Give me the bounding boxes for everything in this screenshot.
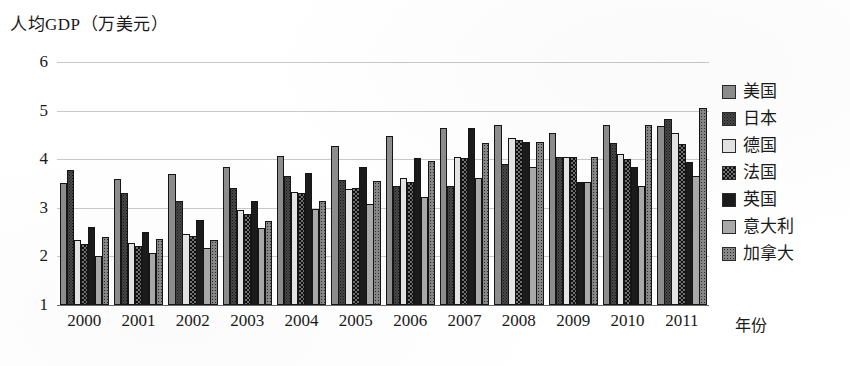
bar-group [603,62,652,305]
legend-swatch-icon [722,247,736,261]
bar [373,181,380,305]
x-axis-tick-labels: 2000200120022003200420052006200720082009… [57,311,709,339]
bar-group [494,62,543,305]
y-tick-label: 2 [0,246,48,266]
bar-group [549,62,598,305]
bar [156,239,163,305]
bar [102,237,109,305]
legend-swatch-icon [722,220,736,234]
legend-item[interactable]: 德国 [722,132,844,159]
x-tick-label: 2001 [122,311,156,331]
legend-label: 加拿大 [743,245,794,262]
x-tick-label: 2011 [665,311,698,331]
x-tick-label: 2005 [339,311,373,331]
chart-title: 人均GDP（万美元） [10,10,168,35]
bar-group [657,62,706,305]
plot-area [57,62,709,305]
bar [645,125,652,305]
legend-label: 意大利 [743,218,794,235]
legend-swatch-icon [722,139,736,153]
bar-group [440,62,489,305]
legend-item[interactable]: 意大利 [722,213,844,240]
bar-group [277,62,326,305]
legend-item[interactable]: 英国 [722,186,844,213]
y-tick-label: 1 [0,295,48,315]
bar [591,157,598,305]
bar [699,108,706,305]
x-tick-label: 2009 [556,311,590,331]
legend-item[interactable]: 日本 [722,105,844,132]
legend-item[interactable]: 加拿大 [722,240,844,267]
bar [482,143,489,305]
x-axis-title: 年份 [735,312,767,336]
legend-item[interactable]: 美国 [722,78,844,105]
y-axis-tick-labels: 123456 [0,62,48,305]
legend-swatch-icon [722,85,736,99]
x-tick-label: 2008 [502,311,536,331]
bar [319,201,326,305]
bar-group [114,62,163,305]
y-tick-label: 3 [0,198,48,218]
bar-group [168,62,217,305]
x-tick-label: 2004 [285,311,319,331]
legend-label: 美国 [743,83,777,100]
bar-group [386,62,435,305]
legend-swatch-icon [722,166,736,180]
x-tick-label: 2006 [393,311,427,331]
x-tick-label: 2003 [230,311,264,331]
legend-label: 法国 [743,164,777,181]
legend-item[interactable]: 法国 [722,159,844,186]
bar-group [223,62,272,305]
legend-label: 英国 [743,191,777,208]
x-tick-label: 2010 [611,311,645,331]
bar-group [60,62,109,305]
x-tick-label: 2002 [176,311,210,331]
y-tick-label: 5 [0,101,48,121]
bar-group [331,62,380,305]
bar [265,221,272,305]
bar [428,161,435,305]
legend-swatch-icon [722,193,736,207]
chart-legend: 美国日本德国法国英国意大利加拿大 [722,78,844,267]
legend-label: 日本 [743,110,777,127]
y-tick-label: 4 [0,149,48,169]
x-tick-label: 2000 [67,311,101,331]
x-tick-label: 2007 [448,311,482,331]
bar [536,142,543,305]
chart-figure: 人均GDP（万美元） 123456 2000200120022003200420… [0,0,850,366]
x-axis-line [57,305,709,306]
y-tick-label: 6 [0,52,48,72]
legend-label: 德国 [743,137,777,154]
bar [210,240,217,305]
legend-swatch-icon [722,112,736,126]
